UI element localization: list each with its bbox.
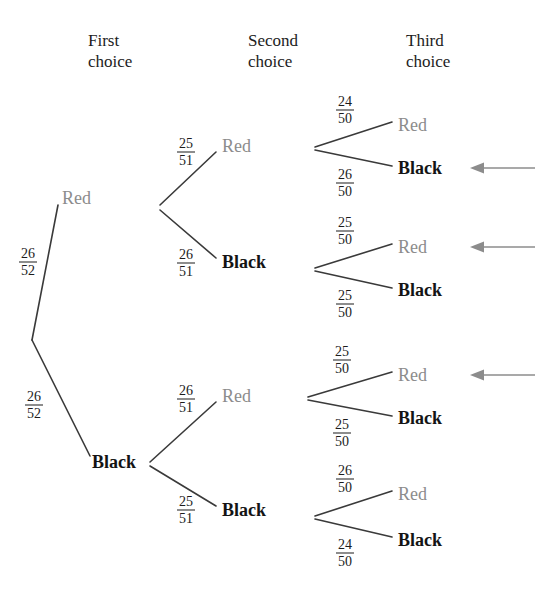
branch-line [315, 122, 392, 147]
probability-fraction: 2652 [19, 247, 37, 278]
branch-line [315, 150, 392, 166]
fraction-denominator: 51 [177, 264, 195, 279]
fraction-numerator: 24 [336, 95, 354, 111]
fraction-numerator: 26 [336, 464, 354, 480]
fraction-numerator: 26 [19, 247, 37, 263]
outcome-label-n2-rr: Red [222, 137, 251, 155]
fraction-numerator: 26 [177, 384, 195, 400]
fraction-numerator: 25 [333, 418, 351, 434]
probability-fraction: 2650 [336, 464, 354, 495]
fraction-denominator: 50 [336, 305, 354, 320]
outcome-label-n3-brb: Black [398, 409, 442, 427]
fraction-numerator: 26 [177, 248, 195, 264]
column-header-third: Third choice [406, 30, 450, 72]
tree-branches-canvas [0, 0, 557, 591]
outcome-label-n3-bbb: Black [398, 531, 442, 549]
outcome-label-n1-red: Red [62, 189, 91, 207]
branch-line [315, 519, 392, 537]
fraction-denominator: 50 [336, 480, 354, 495]
outcome-label-n3-brr: Red [398, 366, 427, 384]
probability-fraction: 2550 [333, 345, 351, 376]
fraction-denominator: 51 [177, 153, 195, 168]
outcome-label-n3-rbr: Red [398, 238, 427, 256]
probability-tree-diagram: First choiceSecond choiceThird choice 26… [0, 0, 557, 591]
fraction-numerator: 25 [336, 216, 354, 232]
outcome-label-n3-rrb: Black [398, 159, 442, 177]
probability-fraction: 2550 [336, 289, 354, 320]
outcome-label-n1-black: Black [92, 453, 136, 471]
outcome-label-n3-rrr: Red [398, 116, 427, 134]
highlight-arrow-icon [470, 370, 535, 381]
probability-fraction: 2650 [336, 168, 354, 199]
column-header-second: Second choice [248, 30, 298, 72]
fraction-numerator: 25 [177, 495, 195, 511]
outcome-label-n2-bb: Black [222, 501, 266, 519]
probability-fraction: 2550 [333, 418, 351, 449]
fraction-numerator: 24 [336, 538, 354, 554]
outcome-label-n3-rbb: Black [398, 281, 442, 299]
probability-fraction: 2550 [336, 216, 354, 247]
arrow-group [470, 163, 535, 381]
branch-line [315, 244, 392, 268]
outcome-label-n2-br: Red [222, 387, 251, 405]
probability-fraction: 2551 [177, 137, 195, 168]
branch-line [308, 372, 392, 397]
probability-fraction: 2450 [336, 95, 354, 126]
fraction-denominator: 50 [336, 184, 354, 199]
fraction-denominator: 50 [336, 111, 354, 126]
outcome-label-n2-rb: Black [222, 253, 266, 271]
highlight-arrow-icon [470, 163, 535, 174]
fraction-denominator: 52 [25, 406, 43, 421]
fraction-numerator: 26 [336, 168, 354, 184]
column-header-first: First choice [88, 30, 132, 72]
fraction-denominator: 51 [177, 511, 195, 526]
fraction-numerator: 25 [336, 289, 354, 305]
probability-fraction: 2652 [25, 390, 43, 421]
fraction-denominator: 50 [333, 361, 351, 376]
fraction-denominator: 52 [19, 263, 37, 278]
fraction-numerator: 26 [25, 390, 43, 406]
branch-line [315, 491, 392, 516]
fraction-denominator: 50 [336, 554, 354, 569]
highlight-arrow-icon [470, 242, 535, 253]
fraction-denominator: 50 [336, 232, 354, 247]
probability-fraction: 2651 [177, 248, 195, 279]
fraction-numerator: 25 [177, 137, 195, 153]
probability-fraction: 2651 [177, 384, 195, 415]
fraction-numerator: 25 [333, 345, 351, 361]
outcome-label-n3-bbr: Red [398, 485, 427, 503]
fraction-denominator: 50 [333, 434, 351, 449]
probability-fraction: 2450 [336, 538, 354, 569]
fraction-denominator: 51 [177, 400, 195, 415]
branch-line [315, 271, 392, 288]
branch-line [308, 400, 392, 416]
probability-fraction: 2551 [177, 495, 195, 526]
